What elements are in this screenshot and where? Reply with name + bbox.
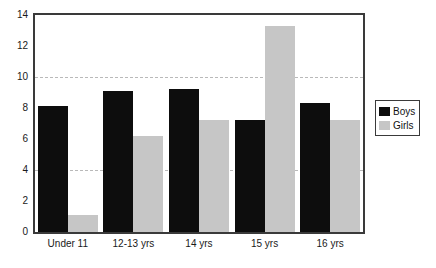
y-axis-tick-label: 2 <box>2 196 28 206</box>
x-axis-tick-label: 12-13 yrs <box>101 238 167 250</box>
legend-swatch-boys-icon <box>379 107 390 116</box>
legend-label: Boys <box>393 106 415 117</box>
y-axis-tick-label: 10 <box>2 72 28 82</box>
bar-girls-16-yrs <box>330 120 360 232</box>
chart-legend: BoysGirls <box>375 100 420 136</box>
bar-girls-12-13-yrs <box>133 136 163 232</box>
x-axis-tick-label: Under 11 <box>35 238 101 250</box>
y-axis-tick-label: 12 <box>2 41 28 51</box>
bar-boys-14-yrs <box>169 89 199 232</box>
y-axis-tick-label: 6 <box>2 134 28 144</box>
bar-girls-15-yrs <box>265 26 295 232</box>
bar-boys-12-13-yrs <box>103 91 133 232</box>
bar-boys-under-11 <box>38 106 68 232</box>
y-axis: 02468101214 <box>0 0 28 268</box>
x-axis-tick-label: 14 yrs <box>166 238 232 250</box>
bar-girls-under-11 <box>68 215 98 232</box>
gridline <box>35 77 363 78</box>
legend-item-boys: Boys <box>379 104 415 118</box>
y-axis-tick-label: 0 <box>2 227 28 237</box>
x-axis-tick-label: 15 yrs <box>232 238 298 250</box>
bar-boys-16-yrs <box>300 103 330 232</box>
y-axis-tick-label: 14 <box>2 10 28 20</box>
y-axis-tick-label: 8 <box>2 103 28 113</box>
bar-boys-15-yrs <box>235 120 265 232</box>
x-axis: Under 1112-13 yrs14 yrs15 yrs16 yrs <box>33 238 365 256</box>
legend-swatch-girls-icon <box>379 121 390 130</box>
legend-label: Girls <box>393 120 414 131</box>
bar-girls-14-yrs <box>199 120 229 232</box>
legend-item-girls: Girls <box>379 118 415 132</box>
bar-chart: 02468101214 Under 1112-13 yrs14 yrs15 yr… <box>0 0 436 268</box>
y-axis-tick-label: 4 <box>2 165 28 175</box>
plot-area <box>33 13 365 234</box>
x-axis-tick-label: 16 yrs <box>297 238 363 250</box>
